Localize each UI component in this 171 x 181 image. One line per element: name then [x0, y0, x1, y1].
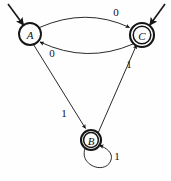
transition-a-to-c-label: 0	[113, 6, 119, 18]
transition-a-to-b-path	[34, 45, 86, 129]
state-c-label: C	[138, 30, 146, 42]
fsm-canvas: 0 0 1 1 1 A C	[0, 0, 171, 181]
transition-a-to-b: 1	[34, 45, 86, 129]
start-arrow-a	[8, 4, 24, 25]
transition-a-to-c-path	[40, 17, 130, 27]
fsm-diagram: 0 0 1 1 1 A C	[0, 0, 171, 181]
state-c[interactable]: C	[130, 23, 154, 47]
start-arrow-a-line	[8, 4, 24, 25]
transition-a-to-c: 0	[40, 6, 130, 28]
state-a-label: A	[26, 29, 34, 41]
start-arrow-c-line	[150, 4, 165, 25]
transition-c-to-a-label: 0	[49, 47, 55, 59]
state-a[interactable]: A	[19, 23, 41, 45]
transition-b-to-c: 1	[99, 45, 137, 132]
state-b-label: B	[88, 135, 95, 147]
transition-b-to-c-label: 1	[126, 58, 132, 70]
start-arrow-c	[150, 4, 165, 25]
transition-b-to-b-label: 1	[114, 150, 120, 162]
transition-a-to-b-label: 1	[61, 107, 67, 119]
transition-c-to-a: 0	[40, 42, 133, 59]
state-b[interactable]: B	[81, 130, 101, 150]
